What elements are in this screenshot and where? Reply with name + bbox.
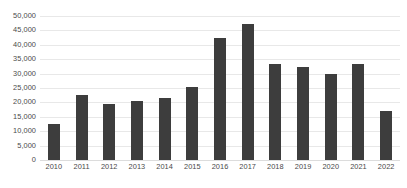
- x-tick-label: 2018: [262, 163, 290, 170]
- bar[interactable]: [297, 67, 309, 160]
- bar[interactable]: [48, 124, 60, 160]
- y-tick-label: 40,000: [0, 41, 36, 48]
- x-tick-label: 2016: [206, 163, 234, 170]
- bar[interactable]: [103, 104, 115, 160]
- y-tick-label: 45,000: [0, 26, 36, 33]
- bar-chart: 05,00010,00015,00020,00025,00030,00035,0…: [0, 0, 407, 188]
- bars-group: [40, 16, 400, 160]
- x-tick-label: 2010: [40, 163, 68, 170]
- y-tick-label: 25,000: [0, 84, 36, 91]
- y-tick-label: 0: [0, 156, 36, 163]
- x-tick-label: 2012: [95, 163, 123, 170]
- bar[interactable]: [76, 95, 88, 160]
- x-tick-label: 2021: [345, 163, 373, 170]
- bar[interactable]: [131, 101, 143, 160]
- bar[interactable]: [242, 24, 254, 161]
- y-tick-label: 5,000: [0, 142, 36, 149]
- y-tick-label: 35,000: [0, 55, 36, 62]
- x-tick-label: 2019: [289, 163, 317, 170]
- y-tick-label: 20,000: [0, 98, 36, 105]
- bar[interactable]: [159, 98, 171, 160]
- x-tick-label: 2015: [178, 163, 206, 170]
- y-tick-label: 15,000: [0, 113, 36, 120]
- x-tick-label: 2020: [317, 163, 345, 170]
- bar[interactable]: [325, 74, 337, 160]
- x-tick-label: 2017: [234, 163, 262, 170]
- x-tick-label: 2022: [372, 163, 400, 170]
- plot-area: [40, 16, 400, 160]
- y-axis: 05,00010,00015,00020,00025,00030,00035,0…: [0, 0, 36, 188]
- y-tick-label: 50,000: [0, 12, 36, 19]
- gridline: [40, 160, 400, 161]
- y-tick-label: 10,000: [0, 127, 36, 134]
- bar[interactable]: [352, 64, 364, 160]
- y-tick-label: 30,000: [0, 70, 36, 77]
- bar[interactable]: [269, 64, 281, 160]
- x-tick-label: 2014: [151, 163, 179, 170]
- x-tick-label: 2011: [68, 163, 96, 170]
- x-tick-label: 2013: [123, 163, 151, 170]
- bar[interactable]: [380, 111, 392, 160]
- bar[interactable]: [186, 87, 198, 160]
- x-axis: 2010201120122013201420152016201720182019…: [40, 163, 400, 179]
- bar[interactable]: [214, 38, 226, 160]
